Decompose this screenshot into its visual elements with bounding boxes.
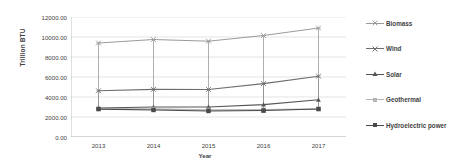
legend-item-wind[interactable]: Wind	[366, 44, 401, 54]
x-axis-title: Year	[60, 152, 350, 159]
legend-label: Geothermal	[386, 96, 421, 103]
y-axis-tick-label: 10000.00	[42, 34, 67, 41]
legend-label: Wind	[386, 45, 401, 52]
data-point	[261, 108, 265, 112]
data-point	[96, 107, 100, 111]
legend-item-hydroelectric-power[interactable]: Hydroelectric power	[366, 120, 447, 130]
y-axis-tick-label: 6000.00	[45, 74, 67, 81]
x-axis-tick-label: 2017	[312, 142, 326, 149]
y-axis-tick-label: 2000.00	[45, 114, 67, 121]
legend-marker-icon	[366, 44, 384, 53]
legend-marker-icon	[366, 70, 384, 79]
y-axis-tick-label: 0.00	[55, 134, 67, 141]
legend-label: Biomass	[386, 20, 412, 27]
data-point	[151, 108, 155, 112]
legend: BiomassWindSolarGeothermalHydroelectric …	[366, 18, 463, 143]
legend-label: Hydroelectric power	[386, 122, 447, 129]
plot-area	[71, 17, 346, 137]
x-axis-tick-label: 2014	[147, 142, 161, 149]
legend-marker-icon	[366, 121, 384, 130]
y-axis-tick-labels: 12000.0010000.008000.006000.004000.00200…	[20, 0, 67, 167]
y-axis-tick-label: 4000.00	[45, 94, 67, 101]
line-chart: Trillion BTU 12000.0010000.008000.006000…	[0, 0, 463, 167]
x-axis-tick-label: 2015	[202, 142, 216, 149]
x-axis-tick-label: 2016	[257, 142, 271, 149]
legend-marker-icon	[366, 95, 384, 104]
error-bar	[316, 76, 320, 109]
legend-marker-icon	[366, 19, 384, 28]
x-axis-tick-labels: 20132014201520162017	[71, 139, 346, 151]
y-axis-tick-label: 8000.00	[45, 54, 67, 61]
data-point	[206, 109, 210, 113]
y-axis-tick-label: 12000.00	[42, 14, 67, 21]
legend-item-geothermal[interactable]: Geothermal	[366, 95, 421, 105]
legend-item-biomass[interactable]: Biomass	[366, 18, 412, 28]
plot-svg	[71, 17, 346, 137]
legend-item-solar[interactable]: Solar	[366, 69, 402, 79]
data-point	[316, 107, 320, 111]
x-axis-tick-label: 2013	[92, 142, 106, 149]
legend-label: Solar	[386, 71, 402, 78]
